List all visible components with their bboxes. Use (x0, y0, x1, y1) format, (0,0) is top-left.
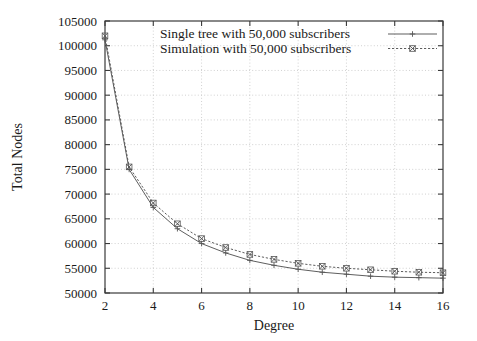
series-marker (392, 268, 398, 274)
series-marker (319, 269, 325, 275)
series-marker (344, 271, 350, 277)
x-tick-label: 14 (388, 298, 402, 313)
y-tick-label: 70000 (65, 187, 98, 202)
series-marker (247, 258, 253, 264)
y-axis-ticks (105, 21, 443, 293)
series-marker (416, 269, 422, 275)
y-tick-label: 65000 (65, 211, 98, 226)
y-tick-label: 60000 (65, 236, 98, 251)
series-marker (368, 267, 374, 273)
y-tick-label: 75000 (65, 162, 98, 177)
data-series (102, 37, 446, 281)
series-marker (368, 273, 374, 279)
plot-frame (105, 21, 443, 293)
x-tick-label: 10 (292, 298, 305, 313)
y-axis-tick-labels: 5000055000600006500070000750008000085000… (58, 14, 97, 301)
y-tick-label: 85000 (65, 112, 98, 127)
x-tick-label: 4 (150, 298, 157, 313)
x-tick-label: 2 (102, 298, 109, 313)
series-marker (175, 221, 181, 227)
series-marker (319, 263, 325, 269)
series-marker (440, 275, 446, 281)
y-tick-label: 90000 (65, 88, 98, 103)
series-marker (271, 263, 277, 269)
series-marker (223, 250, 229, 256)
legend-label: Single tree with 50,000 subscribers (160, 26, 350, 41)
series-marker (199, 236, 205, 242)
series-marker (416, 275, 422, 281)
y-tick-label: 95000 (65, 63, 98, 78)
series-marker (392, 274, 398, 280)
y-axis-title: Total Nodes (10, 123, 25, 191)
series-line (105, 40, 443, 278)
x-tick-label: 8 (247, 298, 254, 313)
chart-page: 5000055000600006500070000750008000085000… (0, 0, 477, 341)
series-marker (223, 245, 229, 251)
line-chart: 5000055000600006500070000750008000085000… (0, 0, 477, 341)
x-tick-label: 6 (198, 298, 205, 313)
x-axis-title: Degree (254, 318, 294, 333)
legend-marker (410, 31, 416, 37)
x-tick-label: 12 (340, 298, 353, 313)
chart-legend: Single tree with 50,000 subscribersSimul… (160, 26, 437, 56)
x-axis-tick-labels: 246810121416 (102, 298, 450, 313)
y-tick-label: 105000 (58, 14, 97, 29)
y-tick-label: 55000 (65, 261, 98, 276)
y-tick-label: 50000 (65, 286, 98, 301)
series-marker (271, 257, 277, 263)
x-tick-label: 16 (437, 298, 451, 313)
legend-label: Simulation with 50,000 subscribers (160, 41, 351, 56)
legend-marker (410, 46, 416, 52)
series-line (105, 36, 443, 273)
y-tick-label: 80000 (65, 137, 98, 152)
x-axis-ticks (105, 21, 443, 293)
series-marker (295, 266, 301, 272)
grid-lines (105, 21, 443, 293)
data-series (102, 33, 446, 275)
y-tick-label: 100000 (58, 38, 97, 53)
